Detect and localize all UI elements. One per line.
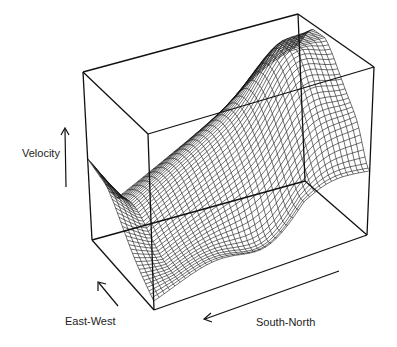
surface-plot: Velocity East-West South-North (0, 0, 397, 347)
south-north-axis-arrow (204, 271, 339, 322)
box-edge (83, 72, 148, 134)
mesh-line-sn (142, 128, 358, 277)
mesh-line-sn (97, 31, 310, 199)
mesh-line-sn (137, 112, 353, 266)
box-edge (298, 14, 374, 67)
surface-mesh (88, 30, 370, 301)
mesh-line-sn (147, 150, 363, 288)
south-north-axis-label: South-North (256, 316, 315, 328)
mesh-line-sn (139, 116, 355, 269)
box-edge (305, 181, 367, 235)
box-front-edges (83, 14, 374, 310)
mesh-line-ew (252, 55, 321, 188)
mesh-line-ew (88, 159, 154, 301)
box-edge (367, 67, 374, 235)
box-edge (148, 134, 154, 310)
box-edge (83, 72, 92, 240)
mesh-line-ew (117, 198, 180, 282)
mesh-line-sn (152, 168, 368, 298)
mesh-line-ew (299, 30, 369, 171)
mesh-line-sn (154, 171, 370, 301)
mesh-line-sn (91, 39, 303, 198)
east-west-axis-arrow (98, 282, 118, 306)
velocity-axis-label: Velocity (22, 147, 60, 159)
mesh-line-ew (105, 184, 169, 290)
mesh-line-sn (131, 94, 347, 252)
velocity-axis-arrow (61, 128, 69, 187)
east-west-axis-label: East-West (65, 315, 116, 327)
